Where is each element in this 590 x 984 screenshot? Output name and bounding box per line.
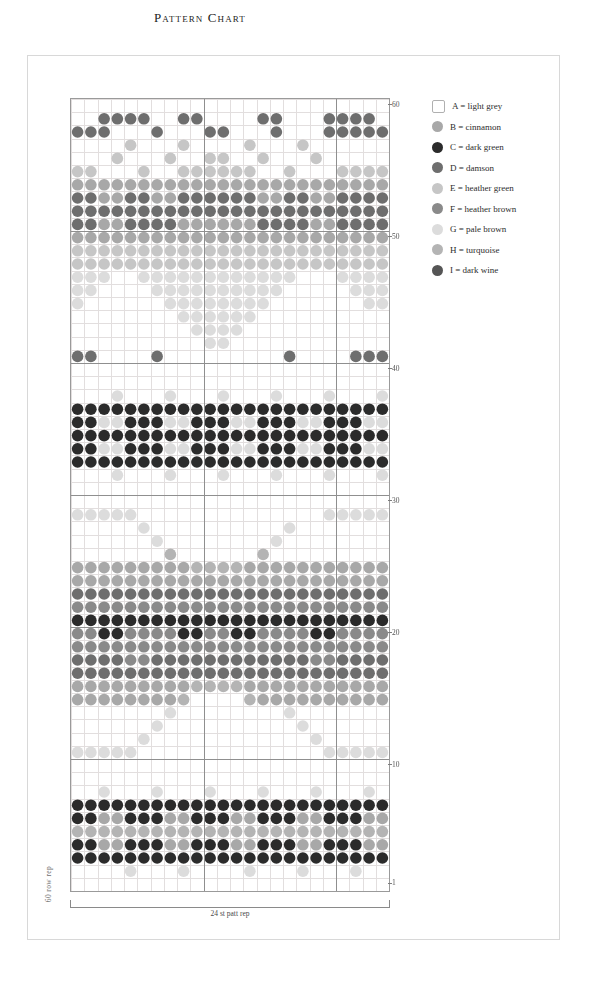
row-tick xyxy=(388,764,392,765)
legend-label: F = heather brown xyxy=(450,204,516,214)
legend-swatch-icon-e xyxy=(432,183,443,194)
pattern-chart-grid xyxy=(70,98,390,892)
row-number-30: 30 xyxy=(392,496,400,505)
legend-item-g: G = pale brown xyxy=(432,219,562,240)
legend-label: A = light grey xyxy=(452,101,502,111)
chart-grid-canvas-wrap xyxy=(70,98,390,892)
legend-item-h: H = turquoise xyxy=(432,240,562,261)
legend-label: D = damson xyxy=(450,163,494,173)
legend-swatch-icon-b xyxy=(432,121,443,132)
row-number-20: 20 xyxy=(392,628,400,637)
row-number-60: 60 xyxy=(392,100,400,109)
legend-item-b: B = cinnamon xyxy=(432,117,562,138)
legend-swatch-icon-a xyxy=(432,100,445,113)
page-title: Pattern Chart xyxy=(0,10,400,26)
row-tick xyxy=(388,883,392,884)
row-tick xyxy=(388,104,392,105)
legend-item-d: D = damson xyxy=(432,158,562,179)
legend-item-a: A = light grey xyxy=(432,96,562,117)
legend-item-c: C = dark green xyxy=(432,137,562,158)
legend-swatch-icon-d xyxy=(432,162,443,173)
stitch-repeat-text: 24 st patt rep xyxy=(206,909,255,918)
legend-swatch-icon-c xyxy=(432,142,443,153)
row-number-40: 40 xyxy=(392,364,400,373)
legend-label: E = heather green xyxy=(450,183,514,193)
color-legend: A = light greyB = cinnamonC = dark green… xyxy=(432,96,562,281)
legend-swatch-icon-g xyxy=(432,224,443,235)
stitch-repeat-bracket: 24 st patt rep xyxy=(70,900,390,908)
row-number-1: 1 xyxy=(392,878,396,887)
row-number-50: 50 xyxy=(392,232,400,241)
row-tick xyxy=(388,368,392,369)
legend-swatch-icon-f xyxy=(432,203,443,214)
legend-label: I = dark wine xyxy=(450,265,498,275)
row-number-10: 10 xyxy=(392,760,400,769)
legend-item-f: F = heather brown xyxy=(432,199,562,220)
legend-item-e: E = heather green xyxy=(432,178,562,199)
stitch-repeat-caption: 24 st patt rep xyxy=(70,902,390,920)
row-repeat-label: 60 row rep xyxy=(44,824,53,944)
row-tick xyxy=(388,632,392,633)
chart-canvas xyxy=(71,99,389,891)
legend-label: H = turquoise xyxy=(450,245,500,255)
legend-label: B = cinnamon xyxy=(450,122,501,132)
legend-swatch-icon-i xyxy=(432,265,443,276)
legend-label: G = pale brown xyxy=(450,224,506,234)
legend-item-i: I = dark wine xyxy=(432,260,562,281)
row-tick xyxy=(388,236,392,237)
row-tick xyxy=(388,500,392,501)
legend-swatch-icon-h xyxy=(432,244,443,255)
legend-label: C = dark green xyxy=(450,142,504,152)
